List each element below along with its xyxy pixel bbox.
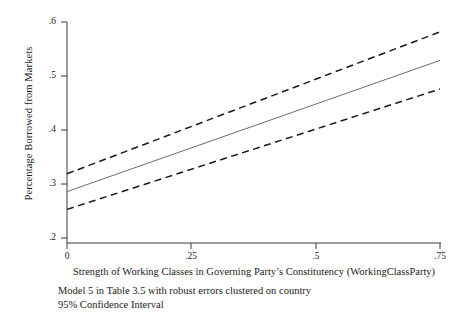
x-tick-label-2: .5	[304, 251, 328, 261]
y-tick-label-0: .2	[36, 232, 56, 242]
caption-line-2: 95% Confidence Interval	[58, 299, 164, 310]
x-tick-label-1: .25	[179, 251, 203, 261]
y-tick-label-1: .3	[36, 178, 56, 188]
y-tick-label-3: .5	[36, 70, 56, 80]
x-tick-label-0: 0	[55, 251, 79, 261]
y-tick-label-2: .4	[36, 124, 56, 134]
x-axis-title: Strength of Working Classes in Governing…	[60, 266, 448, 277]
y-tick-label-4: .6	[36, 16, 56, 26]
chart-figure: .2 .3 .4 .5 .6 0 .25 .5 .75 Percentage B…	[0, 0, 454, 316]
series-lower-confidence-line	[67, 89, 440, 209]
y-axis-title: Percentage Borrowed from Markets	[23, 24, 34, 224]
series-fit-line	[67, 60, 440, 191]
caption-line-1: Model 5 in Table 3.5 with robust errors …	[58, 285, 311, 296]
series-upper-confidence-line	[67, 32, 440, 174]
x-tick-label-3: .75	[428, 251, 452, 261]
